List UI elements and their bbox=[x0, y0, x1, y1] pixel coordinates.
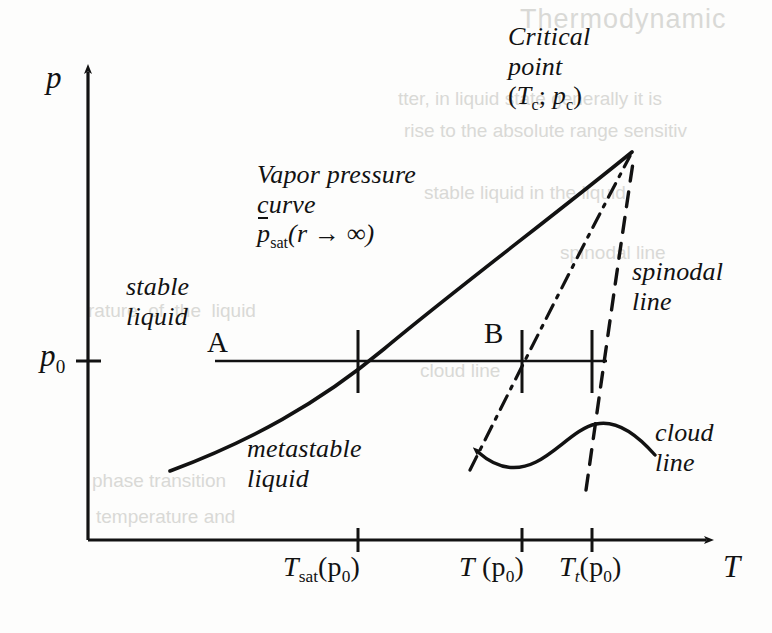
x-tick-label-tt: Tt(p0) bbox=[559, 551, 622, 583]
x-axis-label: T bbox=[723, 549, 740, 584]
y-tick-label-sub: 0 bbox=[56, 356, 66, 377]
cloud-line1: cloud bbox=[655, 418, 714, 447]
annotation-critical-point: Criticalpoint(Tc; pc) bbox=[508, 22, 591, 111]
cloud-line2: line bbox=[655, 448, 695, 477]
xtick-tt-arg-sub: 0 bbox=[603, 567, 612, 586]
xtick-tt-arg-close: ) bbox=[612, 551, 622, 582]
region-metastable-line1: metastable bbox=[247, 434, 362, 463]
region-stable-line2: liquid bbox=[126, 302, 188, 331]
phase-diagram-figure: Thermodynamic tter, in liquid state gene… bbox=[0, 0, 772, 633]
region-metastable-line2: liquid bbox=[247, 464, 309, 493]
vapor-curve-formula-sub: sat bbox=[270, 234, 288, 251]
critical-coords-T: T bbox=[517, 81, 532, 110]
spinodal-line bbox=[586, 156, 634, 490]
region-label-metastable-liquid: metastableliquid bbox=[247, 434, 362, 493]
vapor-curve-line2: curve bbox=[257, 190, 316, 219]
xtick-t-arg-sub: 0 bbox=[506, 567, 515, 586]
region-label-stable-liquid: stableliquid bbox=[126, 272, 189, 331]
annotation-cloud-line: cloudline bbox=[655, 418, 714, 477]
xtick-tsat-arg: (p bbox=[318, 551, 342, 582]
xtick-t-main: T bbox=[459, 551, 475, 582]
xtick-tt-sub: t bbox=[575, 567, 580, 586]
x-tick-label-tsat: Tsat(p0) bbox=[283, 551, 360, 583]
critical-point-line1: Critical bbox=[508, 22, 591, 51]
cloud-line bbox=[478, 423, 655, 467]
x-tick-label-t: T (p0) bbox=[459, 551, 524, 583]
critical-coords-open: ( bbox=[508, 81, 517, 110]
y-tick-label-main: p bbox=[40, 338, 56, 373]
xtick-tsat-sub: sat bbox=[299, 567, 318, 586]
spinodal-line1: spinodal bbox=[632, 257, 723, 286]
xtick-t-arg-close: ) bbox=[514, 551, 524, 582]
diagram-canvas bbox=[0, 0, 772, 633]
critical-coords-T-sub: c bbox=[532, 96, 539, 113]
critical-coords-sep: ; bbox=[539, 81, 553, 110]
region-stable-line1: stable bbox=[126, 272, 189, 301]
critical-coords-p-sub: c bbox=[566, 96, 573, 113]
vapor-curve-formula-p: p bbox=[257, 219, 270, 249]
y-axis-label: p bbox=[46, 60, 62, 95]
xtick-tsat-arg-sub: 0 bbox=[342, 567, 351, 586]
xtick-tt-main: T bbox=[559, 551, 575, 582]
xtick-tsat-main: T bbox=[283, 551, 299, 582]
critical-coords-close: ) bbox=[573, 81, 582, 110]
xtick-tt-arg: (p bbox=[580, 551, 604, 582]
critical-coords-p: p bbox=[553, 81, 566, 110]
xtick-t-arg: (p bbox=[475, 551, 506, 582]
annotation-spinodal-line: spinodalline bbox=[632, 257, 723, 316]
spinodal-line2: line bbox=[632, 287, 672, 316]
critical-point-line2: point bbox=[508, 52, 562, 81]
vapor-curve-line1: Vapor pressure bbox=[257, 160, 416, 189]
annotation-vapor-pressure-curve: Vapor pressurecurvepsat(r → ∞) bbox=[257, 160, 416, 249]
vapor-curve-formula-arg: (r → ∞) bbox=[288, 219, 374, 248]
y-tick-label-p0: p0 bbox=[40, 338, 65, 373]
point-label-b: B bbox=[484, 317, 504, 350]
point-label-a: A bbox=[207, 326, 228, 359]
xtick-tsat-arg-close: ) bbox=[351, 551, 361, 582]
